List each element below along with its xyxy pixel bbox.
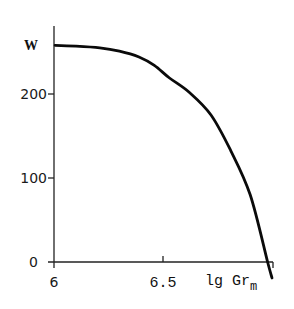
chart: 0100200 66.5 W lg Grm	[0, 0, 294, 309]
y-tick-label: 200	[20, 86, 47, 102]
y-tick-label: 0	[29, 254, 38, 270]
y-tick-label: 100	[20, 170, 47, 186]
y-ticks: 0100200	[20, 86, 54, 270]
x-axis-label-subscript: m	[250, 280, 257, 294]
x-tick-label: 6	[50, 274, 59, 290]
series-line-w	[55, 45, 272, 278]
x-axis-label-main: lg Gr	[205, 273, 250, 290]
x-axis-label: lg Grm	[205, 273, 257, 294]
x-tick-label: 6.5	[149, 275, 176, 292]
y-axis-label: W	[24, 38, 38, 53]
